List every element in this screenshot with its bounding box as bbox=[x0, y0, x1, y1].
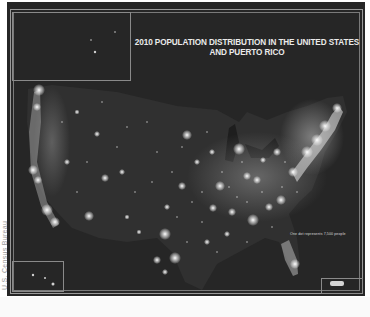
map-legend: One dot represents 7,500 people bbox=[290, 232, 346, 236]
population-map: 2010 POPULATION DISTRIBUTION IN THE UNIT… bbox=[7, 2, 365, 296]
hawaii-inset bbox=[12, 261, 64, 292]
map-title-line1: 2010 POPULATION DISTRIBUTION IN THE UNIT… bbox=[132, 38, 362, 48]
alaska-inset bbox=[12, 12, 131, 81]
map-title: 2010 POPULATION DISTRIBUTION IN THE UNIT… bbox=[132, 38, 362, 58]
bottom-margin bbox=[0, 297, 370, 317]
map-title-line2: AND PUERTO RICO bbox=[132, 48, 362, 58]
puerto-rico-inset bbox=[321, 278, 363, 294]
